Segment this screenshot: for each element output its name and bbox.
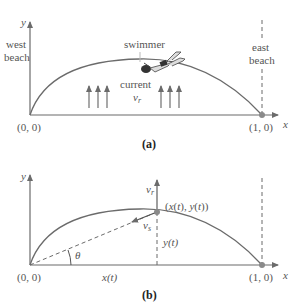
caption-b: (b) (142, 288, 157, 302)
theta-arc (68, 250, 71, 265)
vr-label: vr (146, 183, 155, 197)
vs-label: vs (143, 219, 151, 233)
swimmer-diagram: y x west beach east beach swimmer curren… (0, 0, 301, 303)
x-axis-label: x (282, 269, 288, 281)
east-beach-label-2: beach (249, 54, 275, 66)
swimmer-point (154, 209, 160, 215)
current-label: current (120, 78, 151, 90)
west-beach-label-2: beach (4, 51, 30, 63)
current-symbol: vr (133, 91, 142, 105)
current-arrows-left (89, 86, 107, 108)
theta-label: θ (75, 249, 81, 261)
xt-label: x(t) (101, 271, 118, 284)
end-label: (1, 0) (249, 121, 273, 134)
panel-a: y x west beach east beach swimmer curren… (4, 16, 288, 151)
x-axis-label: x (282, 118, 288, 130)
swimmer-label: swimmer (124, 38, 165, 50)
origin-label: (0, 0) (17, 271, 41, 284)
y-axis-label: y (20, 16, 26, 28)
end-point (259, 262, 265, 268)
end-point (259, 112, 265, 118)
end-label: (1, 0) (249, 271, 273, 284)
west-beach-label-1: west (6, 38, 26, 50)
panel-b: y x θ (x(t), y(t)) vr vs y(t) x(t) (0, 0 (17, 170, 288, 302)
trajectory-curve (30, 209, 262, 265)
current-arrows-right (161, 86, 179, 108)
origin-label: (0, 0) (17, 121, 41, 134)
point-label: (x(t), y(t)) (165, 200, 209, 213)
swimmer-icon (140, 52, 185, 73)
y-axis-label: y (20, 170, 26, 182)
yt-label: y(t) (162, 236, 179, 249)
caption-a: (a) (142, 137, 156, 151)
east-beach-label-1: east (252, 41, 269, 53)
